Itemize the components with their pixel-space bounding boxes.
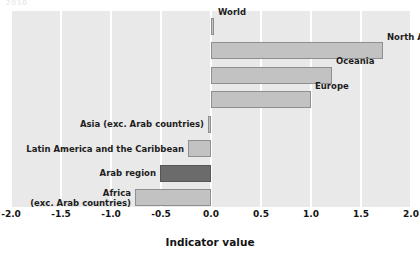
- bar-asia-exc-arab-countries[interactable]: [208, 116, 211, 133]
- bar-world[interactable]: [211, 18, 214, 35]
- x-tick-label-1.0: 1.0: [303, 209, 319, 219]
- category-label-arab-region: Arab region: [100, 168, 156, 178]
- category-label-line: (exc. Arab countries): [30, 198, 131, 208]
- category-label-line: World: [218, 7, 246, 17]
- category-label-asia-exc-arab-countries: Asia (exc. Arab countries): [80, 119, 204, 129]
- category-label-line: Latin America and the Caribbean: [26, 144, 184, 154]
- clipped-header-remnant: 2010: [6, 0, 76, 7]
- gridline-1.0: [310, 11, 312, 207]
- gridline--1.5: [60, 11, 62, 207]
- category-label-oceania: Oceania: [336, 56, 374, 66]
- gridline-0.5: [260, 11, 262, 207]
- bar-arab-region[interactable]: [160, 165, 211, 182]
- bar-africa-exc-arab-countries[interactable]: [135, 189, 211, 206]
- plot-area: [11, 11, 411, 207]
- category-label-line: Arab region: [100, 168, 156, 178]
- chart-figure: 2010 WorldNorth AmericaOceaniaEuropeAsia…: [0, 0, 420, 264]
- bar-oceania[interactable]: [211, 67, 332, 84]
- category-label-line: Asia (exc. Arab countries): [80, 119, 204, 129]
- x-tick-label--1.0: -1.0: [101, 209, 121, 219]
- category-label-line: Europe: [315, 81, 349, 91]
- x-tick-label-0.0: 0.0: [203, 209, 219, 219]
- category-label-africa-exc-arab-countries: Africa(exc. Arab countries): [30, 188, 131, 208]
- bar-latin-america-and-the-caribbean[interactable]: [188, 140, 211, 157]
- x-tick-label--2.0: -2.0: [1, 209, 21, 219]
- x-tick-label--0.5: -0.5: [151, 209, 171, 219]
- category-label-line: North America: [387, 32, 420, 42]
- category-label-world: World: [218, 7, 246, 17]
- category-label-latin-america-and-the-caribbean: Latin America and the Caribbean: [26, 144, 184, 154]
- x-tick-label-1.5: 1.5: [353, 209, 369, 219]
- x-tick-label--1.5: -1.5: [51, 209, 71, 219]
- gridline-1.5: [360, 11, 362, 207]
- x-axis-title: Indicator value: [0, 236, 420, 248]
- bar-europe[interactable]: [211, 91, 311, 108]
- category-label-line: Oceania: [336, 56, 374, 66]
- category-label-europe: Europe: [315, 81, 349, 91]
- gridline--2.0: [11, 11, 12, 207]
- category-label-north-america: North America: [387, 32, 420, 42]
- category-label-line: Africa: [30, 188, 131, 198]
- x-tick-label-2.0: 2.0: [403, 209, 419, 219]
- x-tick-label-0.5: 0.5: [253, 209, 269, 219]
- x-axis-tick-labels: -2.0-1.5-1.0-0.50.00.51.01.52.0: [11, 209, 411, 223]
